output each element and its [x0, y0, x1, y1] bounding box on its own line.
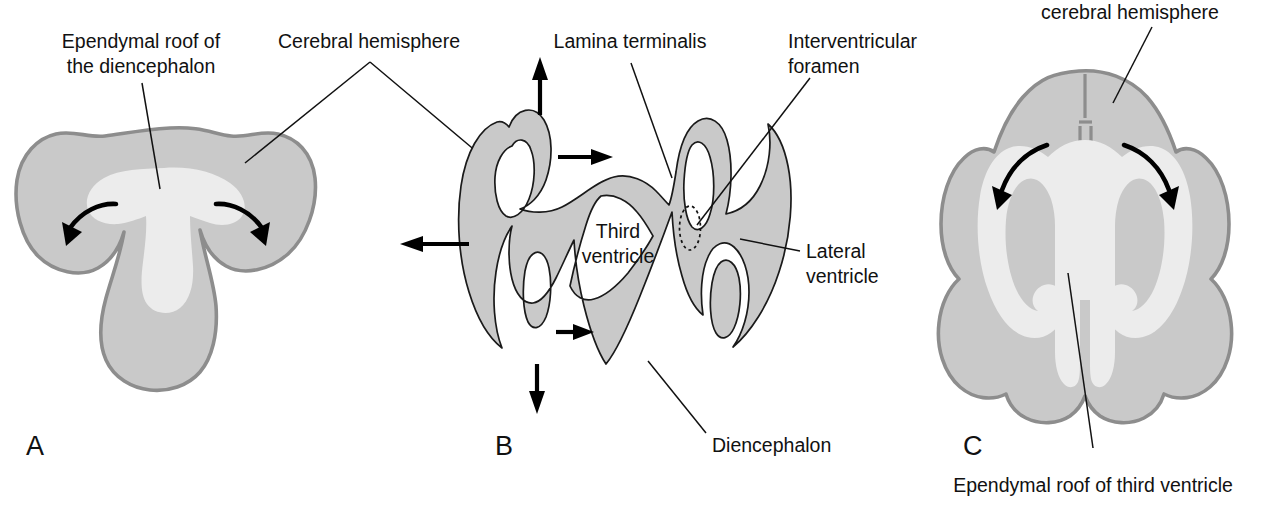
label-diencephalon: Diencephalon — [712, 434, 831, 456]
leader-cerebral-hemisphere-left — [245, 62, 370, 163]
panel-letter-a: A — [26, 431, 44, 461]
label-ependymal-roof-diencephalon-line1: Ependymal roof of — [62, 30, 221, 52]
label-cerebral-hemisphere: Cerebral hemisphere — [278, 30, 460, 52]
label-third-ventricle-line2: ventricle — [582, 245, 655, 267]
label-lateral-ventricle-line2: ventricle — [806, 265, 879, 287]
figure-canvas: A Ependymal roof of the diencephalon Cer… — [0, 0, 1286, 511]
panel-letter-b: B — [495, 431, 513, 461]
label-interventricular-foramen-line1: Interventricular — [788, 30, 917, 52]
label-interventricular-foramen-line2: foramen — [788, 55, 860, 77]
anatomy-figure: A Ependymal roof of the diencephalon Cer… — [0, 0, 1286, 511]
leader-diencephalon — [648, 361, 706, 433]
label-cerebral-hemisphere-c: cerebral hemisphere — [1041, 1, 1219, 23]
label-lateral-ventricle-line1: Lateral — [806, 240, 866, 262]
label-ependymal-roof-third-ventricle: Ependymal roof of third ventricle — [953, 474, 1233, 496]
label-ependymal-roof-diencephalon-line2: the diencephalon — [67, 55, 216, 77]
expansion-arrow-down-head — [529, 391, 545, 414]
expansion-arrow-right-upper-head — [591, 149, 613, 165]
label-third-ventricle-line1: Third — [596, 220, 640, 242]
panel-letter-c: C — [963, 431, 983, 461]
panel-a: A — [16, 83, 315, 461]
panel-c: C — [938, 27, 1231, 461]
leader-lamina-terminalis — [631, 63, 672, 178]
expansion-arrow-left-head — [400, 236, 423, 252]
label-lamina-terminalis: Lamina terminalis — [554, 30, 707, 52]
expansion-arrow-up-head — [532, 57, 548, 80]
